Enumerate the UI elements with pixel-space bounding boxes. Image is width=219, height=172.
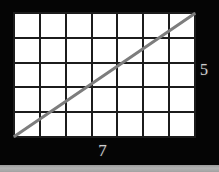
grid-cell	[41, 113, 65, 136]
figure-canvas: 7 5	[0, 0, 219, 172]
grid-cell	[118, 88, 142, 111]
grid-cell	[67, 64, 91, 87]
grid-cell	[170, 39, 194, 62]
grid-cell	[170, 14, 194, 37]
grid-cell	[41, 64, 65, 87]
grid-cell	[170, 88, 194, 111]
x-axis-label: 7	[0, 142, 219, 159]
grid-cell	[15, 14, 39, 37]
grid-cell	[93, 113, 117, 136]
grid-cell	[93, 88, 117, 111]
grid-cell	[144, 113, 168, 136]
grid-cell	[67, 88, 91, 111]
grid-cell	[118, 113, 142, 136]
grid-cell	[144, 14, 168, 37]
grid-cell	[41, 14, 65, 37]
grid	[13, 12, 196, 138]
grid-cell	[118, 39, 142, 62]
grid-cell	[93, 39, 117, 62]
grid-container	[13, 12, 196, 138]
grid-cell	[15, 113, 39, 136]
grid-cell	[41, 39, 65, 62]
grid-cell	[93, 64, 117, 87]
y-axis-label: 5	[200, 62, 208, 78]
grid-cell	[41, 88, 65, 111]
bottom-strip	[0, 165, 219, 172]
grid-cell	[67, 39, 91, 62]
grid-cell	[15, 64, 39, 87]
grid-cell	[170, 64, 194, 87]
grid-cell	[67, 14, 91, 37]
grid-cell	[93, 14, 117, 37]
grid-cell	[15, 88, 39, 111]
grid-cell	[144, 88, 168, 111]
grid-cell	[144, 39, 168, 62]
grid-cell	[67, 113, 91, 136]
grid-cell	[15, 39, 39, 62]
grid-cell	[118, 64, 142, 87]
grid-cell	[144, 64, 168, 87]
grid-cell	[170, 113, 194, 136]
grid-cell	[118, 14, 142, 37]
